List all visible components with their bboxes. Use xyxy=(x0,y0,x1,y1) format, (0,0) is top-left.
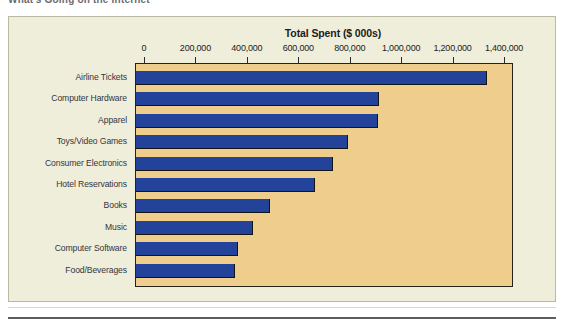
clipped-heading: What's Going on the Internet xyxy=(8,0,268,6)
bar xyxy=(136,199,270,213)
x-axis-tick-label: 400,000 xyxy=(231,43,262,53)
chart-title: Total Spent ($ 000s) xyxy=(143,27,523,39)
y-axis-category-label: Toys/Video Games xyxy=(9,136,127,146)
x-axis-tick-label: 200,000 xyxy=(180,43,211,53)
bar xyxy=(136,221,253,235)
bar xyxy=(136,114,378,128)
bars-layer xyxy=(136,64,512,286)
x-axis-tick-label: 1,000,000 xyxy=(382,43,420,53)
y-axis-category-label: Books xyxy=(9,200,127,210)
x-axis-tick-label: 600,000 xyxy=(283,43,314,53)
bar xyxy=(136,178,315,192)
y-axis-category-label: Music xyxy=(9,222,127,232)
bar xyxy=(136,92,379,106)
bar xyxy=(136,71,487,85)
y-axis-category-label: Consumer Electronics xyxy=(9,158,127,168)
y-axis-category-label: Food/Beverages xyxy=(9,265,127,275)
bar xyxy=(136,157,333,171)
y-axis-category-label: Computer Hardware xyxy=(9,93,127,103)
plot-area xyxy=(135,63,513,287)
x-axis-tick-label: 1,400,000 xyxy=(485,43,523,53)
bar xyxy=(136,264,235,278)
x-axis-tick-label: 1,200,000 xyxy=(433,43,471,53)
y-axis-category-label: Airline Tickets xyxy=(9,72,127,82)
x-axis-tick-labels: 0200,000400,000600,000800,0001,000,0001,… xyxy=(9,43,557,57)
bar xyxy=(136,242,238,256)
chart-figure-panel: Total Spent ($ 000s) 0200,000400,000600,… xyxy=(8,16,556,302)
x-axis-tick-label: 800,000 xyxy=(334,43,365,53)
bottom-rule-thick xyxy=(8,317,556,319)
y-axis-category-labels: Airline TicketsComputer HardwareApparelT… xyxy=(9,63,131,287)
y-axis-category-label: Computer Software xyxy=(9,243,127,253)
y-axis-category-label: Apparel xyxy=(9,115,127,125)
bottom-rule-thin xyxy=(8,307,556,308)
y-axis-category-label: Hotel Reservations xyxy=(9,179,127,189)
x-axis-tick-label: 0 xyxy=(142,43,147,53)
bar xyxy=(136,135,348,149)
